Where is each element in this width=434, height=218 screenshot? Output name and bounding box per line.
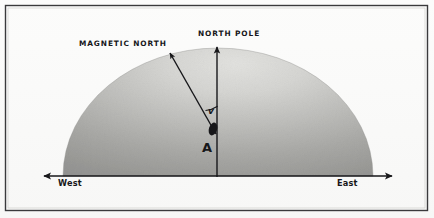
- label-west: West: [58, 178, 82, 188]
- label-point-a: A: [202, 140, 212, 155]
- label-north-pole: NORTH POLE: [198, 29, 260, 38]
- diagram-figure: MAGNETIC NORTH NORTH POLE West East A v: [0, 0, 434, 218]
- label-magnetic-north: MAGNETIC NORTH: [79, 39, 167, 48]
- label-east: East: [337, 178, 358, 188]
